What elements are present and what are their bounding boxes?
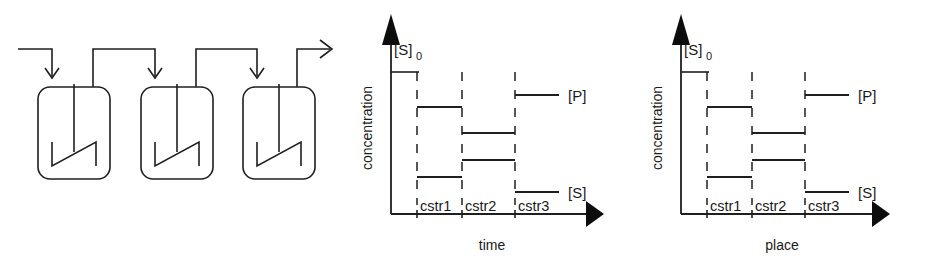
x-tick-label-cstr2: cstr2 [465, 198, 496, 214]
series-P-label: [P] [568, 87, 586, 104]
chart-concentration-vs-place: concentration place [S] 0 [642, 0, 927, 265]
initial-level-subscript: 0 [416, 50, 422, 62]
x-axis-arrowhead [872, 201, 890, 227]
x-axis-arrowhead [586, 201, 604, 227]
x-tick-label-cstr3: cstr3 [518, 198, 549, 214]
chart-time-svg: concentration time [S] 0 [352, 0, 642, 265]
y-axis-title: concentration [359, 86, 375, 170]
initial-level-label: [S] [684, 41, 702, 58]
series-P-label: [P] [858, 87, 876, 104]
x-tick-label-cstr1: cstr1 [710, 198, 741, 214]
chart-place-svg: concentration place [S] 0 [642, 0, 927, 265]
figure-root: concentration time [S] 0 [0, 0, 927, 265]
x-axis-title: time [479, 237, 506, 253]
x-tick-label-cstr3: cstr3 [808, 198, 839, 214]
initial-level-label: [S] [394, 41, 412, 58]
transfer-line-1-2 [93, 49, 155, 87]
reactor-cascade-diagram [0, 0, 350, 265]
initial-level-subscript: 0 [706, 50, 712, 62]
chart-concentration-vs-time: concentration time [S] 0 [352, 0, 642, 265]
x-axis-title: place [765, 237, 799, 253]
transfer-line-2-3 [196, 49, 257, 87]
reactor-cascade-svg [0, 0, 350, 265]
y-axis-title: concentration [649, 86, 665, 170]
series-S-label: [S] [568, 184, 586, 201]
series-S-label: [S] [858, 184, 876, 201]
x-tick-label-cstr2: cstr2 [755, 198, 786, 214]
x-tick-label-cstr1: cstr1 [420, 198, 451, 214]
